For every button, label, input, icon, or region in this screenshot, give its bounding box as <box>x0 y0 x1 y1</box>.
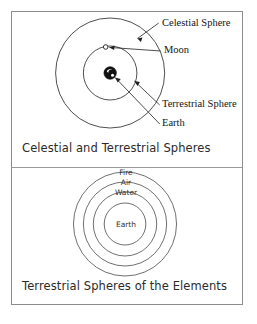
figure-root: Celestial Sphere Moon Terrestrial Sphere… <box>0 0 257 324</box>
panel-element-spheres: Fire Air Water Earth Terrestrial Spheres… <box>12 167 242 306</box>
caption-element-spheres: Terrestrial Spheres of the Elements <box>22 279 227 293</box>
figure-frame: Celestial Sphere Moon Terrestrial Sphere… <box>11 11 243 305</box>
leader-line-celestial-sphere <box>137 23 158 42</box>
panel-celestial-spheres: Celestial Sphere Moon Terrestrial Sphere… <box>12 12 242 167</box>
callout-label-moon: Moon <box>164 44 189 55</box>
ring-label-earth: Earth <box>116 220 136 229</box>
ring-label-water: Water <box>115 188 137 197</box>
caption-celestial-spheres: Celestial and Terrestrial Spheres <box>22 141 211 155</box>
ring-label-air: Air <box>121 178 131 187</box>
moon-marker <box>103 45 108 50</box>
earth-marker <box>104 67 116 79</box>
callout-label-terrestrial-sphere: Terrestrial Sphere <box>162 98 237 109</box>
callout-label-celestial-sphere: Celestial Sphere <box>162 17 231 28</box>
leader-line-moon <box>109 46 160 51</box>
callout-label-earth: Earth <box>162 117 185 128</box>
ring-label-fire: Fire <box>119 168 132 177</box>
